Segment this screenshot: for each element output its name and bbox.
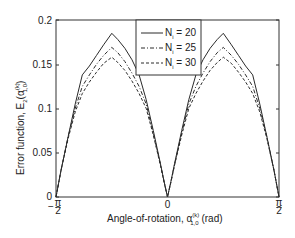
error-function-chart: 0 0.05 0.1 0.15 0.2 − π 2 0 π 2 Angle-of…: [0, 0, 295, 238]
x-axis-label: Angle-of-rotation, α(k)1,0 (rad): [107, 212, 223, 226]
x-tick-label-0: 0: [165, 199, 171, 210]
svg-text:2: 2: [276, 205, 282, 216]
y-axis-label: Error function, E2(α(k)1,0): [14, 81, 28, 175]
y-tick-label-015: 0.15: [33, 59, 53, 70]
legend: Ni = 20 Ni = 25 Ni = 30: [136, 20, 201, 75]
svg-text:−: −: [48, 201, 54, 212]
y-tick-label-01: 0.1: [38, 103, 52, 114]
svg-text:2: 2: [55, 205, 61, 216]
y-tick-label-02: 0.2: [38, 15, 52, 26]
x-tick-label-pi-over-2: π 2: [276, 197, 283, 216]
series-line-3: [56, 57, 279, 197]
y-tick-label-005: 0.05: [33, 147, 53, 158]
